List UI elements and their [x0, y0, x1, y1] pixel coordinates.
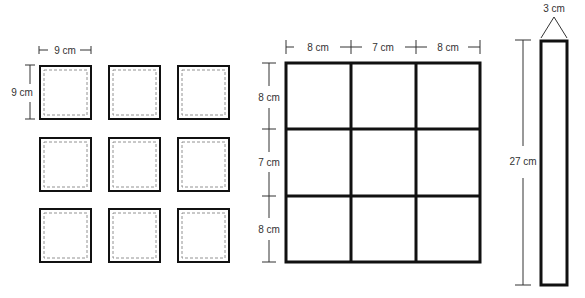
strip — [541, 41, 567, 285]
small-square-height-label: 9 cm — [11, 87, 33, 98]
diagram: 9 cm 9 cm — [0, 0, 585, 298]
small-square — [109, 138, 160, 191]
small-square — [178, 209, 229, 262]
small-squares — [40, 66, 229, 262]
small-square — [109, 66, 160, 119]
strip-width-label: 3 cm — [543, 3, 565, 14]
grid-col-label-2: 7 cm — [372, 42, 394, 53]
small-square — [40, 66, 91, 119]
grid-col-label-1: 8 cm — [307, 42, 329, 53]
strip-height-label: 27 cm — [509, 156, 536, 167]
grid-col-label-3: 8 cm — [437, 42, 459, 53]
small-square — [178, 66, 229, 119]
small-square — [40, 209, 91, 262]
small-square — [109, 209, 160, 262]
small-square-width-label: 9 cm — [54, 45, 76, 56]
assembled-grid — [286, 63, 480, 262]
grid-row-label-2: 7 cm — [258, 157, 280, 168]
grid-row-label-3: 8 cm — [258, 224, 280, 235]
small-square — [178, 138, 229, 191]
small-square — [40, 138, 91, 191]
grid-row-label-1: 8 cm — [258, 92, 280, 103]
strip-width-dimension — [541, 17, 567, 38]
